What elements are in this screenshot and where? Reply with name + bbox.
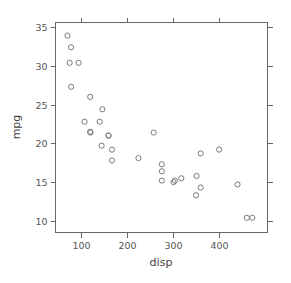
x-tick-label-400: 400 — [210, 240, 228, 251]
x-tick-label-300: 300 — [164, 240, 182, 251]
plot-screenshot: 101520253035 100200300400 disp mpg — [0, 0, 291, 283]
y-axis-title: mpg — [10, 115, 23, 140]
y-tick-label-10: 10 — [35, 216, 47, 227]
scatter-plot: 101520253035 100200300400 disp mpg — [0, 0, 291, 283]
y-tick-label-20: 20 — [35, 138, 47, 149]
y-tick-label-35: 35 — [35, 22, 47, 33]
x-axis-title: disp — [150, 256, 173, 269]
x-tick-label-200: 200 — [118, 240, 136, 251]
y-tick-label-25: 25 — [35, 100, 47, 111]
x-tick-label-100: 100 — [72, 240, 90, 251]
y-tick-label-15: 15 — [35, 177, 47, 188]
y-tick-label-30: 30 — [35, 61, 47, 72]
